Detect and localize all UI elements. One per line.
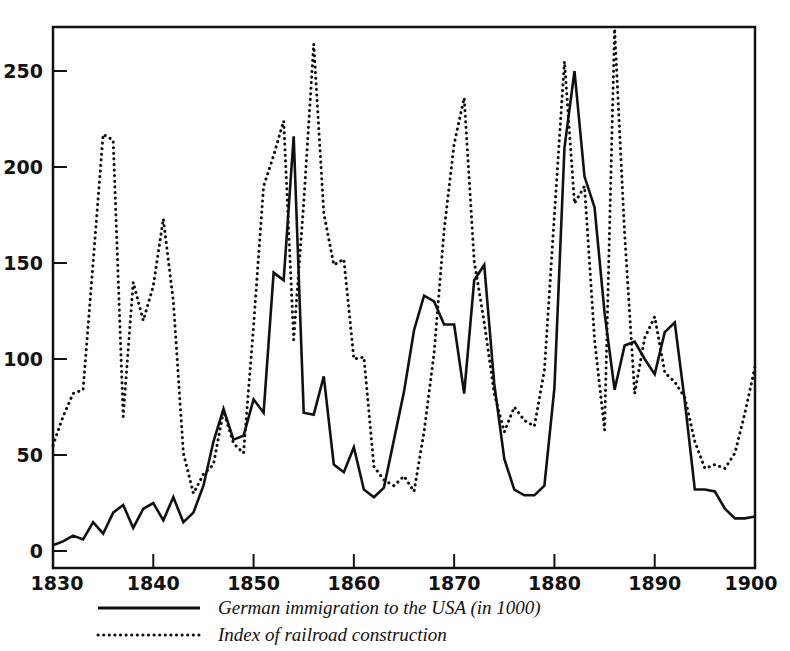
x-axis-tick-label: 1870 bbox=[428, 572, 481, 594]
x-axis-tick-label: 1890 bbox=[628, 572, 681, 594]
x-axis-tick-label: 1880 bbox=[528, 572, 581, 594]
chart-series bbox=[53, 29, 755, 545]
y-axis-tick-labels: 050100150200250 bbox=[3, 60, 43, 562]
series-line-german-immigration bbox=[53, 71, 755, 545]
chart-axes bbox=[53, 27, 755, 568]
series-line-railroad-index bbox=[53, 29, 755, 494]
x-axis-tick-label: 1830 bbox=[31, 572, 84, 594]
legend-item-label: German immigration to the USA (in 1000) bbox=[218, 597, 541, 619]
chart-figure: 050100150200250 183018401850186018701880… bbox=[0, 0, 790, 651]
y-axis-tick-label: 50 bbox=[17, 444, 43, 466]
y-axis-tick-label: 250 bbox=[3, 60, 43, 82]
y-axis-tick-label: 100 bbox=[3, 348, 43, 370]
x-axis-tick-label: 1860 bbox=[327, 572, 380, 594]
y-axis-tick-label: 0 bbox=[30, 540, 43, 562]
y-axis-tick-label: 200 bbox=[3, 156, 43, 178]
plot-frame bbox=[53, 27, 755, 568]
chart-legend: German immigration to the USA (in 1000)I… bbox=[98, 597, 541, 645]
x-axis-tick-label: 1840 bbox=[127, 572, 180, 594]
y-axis-tick-label: 150 bbox=[3, 252, 43, 274]
x-axis-tick-label: 1900 bbox=[725, 572, 778, 594]
x-axis-tick-label: 1850 bbox=[227, 572, 280, 594]
line-chart-svg: 050100150200250 183018401850186018701880… bbox=[0, 0, 790, 651]
x-axis-tick-labels: 18301840185018601870188018901900 bbox=[31, 572, 778, 594]
legend-item-label: Index of railroad construction bbox=[217, 624, 447, 645]
